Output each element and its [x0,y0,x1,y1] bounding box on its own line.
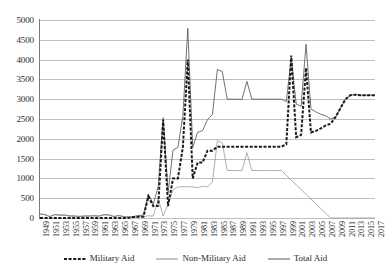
x-axis-tick-label: 1985 [221,221,229,237]
y-axis-tick-label: 3000 [16,95,34,104]
legend-item-military-aid[interactable]: Military Aid [64,254,135,263]
series-lines [40,20,375,218]
x-axis-tick-label: 1995 [270,221,278,237]
x-axis-tick-label: 1971 [152,221,160,237]
aid-line-chart: 0500100015002000250030003500400045005000… [0,0,391,276]
x-axis-tick-label: 1959 [92,221,100,237]
x-axis-tick-label: 1953 [63,221,71,237]
x-axis-tick-label: 1999 [290,221,298,237]
y-axis-tick-label: 4500 [16,36,34,45]
y-axis-tick-labels: 0500100015002000250030003500400045005000 [0,0,37,238]
x-axis-tick-label: 1981 [201,221,209,237]
plot-area [40,20,375,218]
x-axis-tick-label: 1955 [73,221,81,237]
x-axis-tick-label: 2013 [358,221,366,237]
x-axis-tick-label: 1957 [83,221,91,237]
y-axis-tick-label: 3500 [16,75,34,84]
x-axis-tick-label: 2007 [329,221,337,237]
x-axis-tick-label: 1989 [240,221,248,237]
y-axis-tick-label: 2000 [16,135,34,144]
legend-item-non-military-aid[interactable]: Non-Military Aid [156,254,245,263]
x-axis-tick-label: 1975 [171,221,179,237]
x-axis-tick-label: 2005 [319,221,327,237]
x-axis-tick-label: 1969 [142,221,150,237]
x-axis-tick-label: 1991 [250,221,258,237]
x-axis-tick-label: 1963 [112,221,120,237]
x-axis-tick-label: 1949 [43,221,51,237]
x-axis-tick-label: 1967 [132,221,140,237]
x-axis-tick-label: 2011 [349,221,357,237]
y-axis-tick-label: 500 [21,194,34,203]
x-axis-tick-label: 2009 [339,221,347,237]
gridline [40,218,375,219]
x-axis-tick-label: 1965 [122,221,130,237]
legend-swatch-military-aid [64,255,86,263]
x-axis-tick-label: 2003 [309,221,317,237]
x-axis-tick-label: 1951 [53,221,61,237]
y-axis-tick-label: 4000 [16,56,34,65]
series-line-total-aid [40,28,375,217]
y-axis-tick-label: 1000 [16,174,34,183]
legend-swatch-non-military-aid [156,255,178,263]
y-axis-tick-label: 1500 [16,155,34,164]
y-axis-tick-label: 2500 [16,115,34,124]
legend-label: Military Aid [90,254,135,263]
x-axis-tick-label: 1979 [191,221,199,237]
x-axis-tick-label: 1977 [181,221,189,237]
legend-label: Total Aid [294,254,328,263]
x-axis-tick-label: 2017 [378,221,386,237]
x-axis-tick-label: 1993 [260,221,268,237]
legend-swatch-total-aid [268,255,290,263]
x-axis-tick-label: 1983 [211,221,219,237]
x-axis-tick-label: 1961 [102,221,110,237]
x-axis-tick-label: 2001 [299,221,307,237]
x-axis-tick-label: 1997 [280,221,288,237]
chart-legend: Military AidNon-Military AidTotal Aid [0,254,391,263]
legend-item-total-aid[interactable]: Total Aid [268,254,328,263]
x-axis-tick-label: 1973 [161,221,169,237]
y-axis-tick-label: 5000 [16,16,34,25]
series-line-military-aid [40,56,375,218]
legend-label: Non-Military Aid [182,254,245,263]
x-axis-tick-label: 1987 [230,221,238,237]
y-axis-tick-label: 0 [30,214,34,223]
x-axis-tick-label: 2015 [368,221,376,237]
